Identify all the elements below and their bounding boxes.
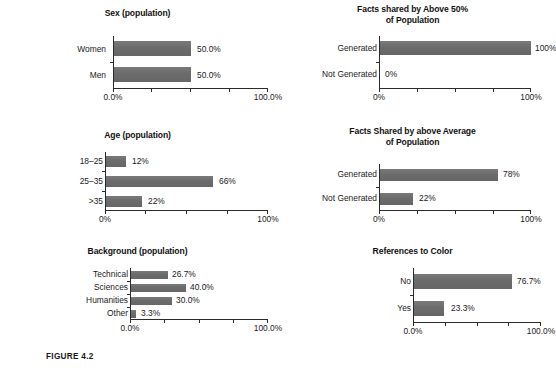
plot-area: Women 50.0% Men 50.0% 0.0% 100.0% (113, 36, 268, 88)
x-tick (227, 210, 228, 214)
chart-panel-sex: Sex (population) Women 50.0% Men 50.0% 0… (0, 0, 275, 120)
figure-chart-grid: Sex (population) Women 50.0% Men 50.0% 0… (0, 0, 550, 340)
bar-value-label: 30.0% (176, 296, 200, 305)
bar-category-label: Other (107, 309, 128, 318)
x-tick (417, 88, 418, 92)
bar-category-label: Humanities (86, 296, 128, 305)
bar-value-label: 23.3% (451, 304, 475, 313)
x-tick (477, 322, 478, 326)
y-tick (102, 171, 105, 172)
bar-value-label: 0% (385, 70, 397, 79)
bar-value-label: 76.7% (517, 277, 541, 286)
chart-panel-background: Background (population) Technical 26.7% … (0, 240, 275, 340)
bar-value-label: 50.0% (197, 45, 221, 54)
x-axis-min-label: 0.0% (103, 93, 122, 102)
bar-value-label: 26.7% (172, 270, 196, 279)
chart-title-line1: Facts Shared by above Average (275, 126, 550, 137)
bar (380, 41, 531, 55)
x-axis-min-label: 0% (373, 215, 385, 224)
bar (131, 310, 136, 318)
bar-category-label: Not Generated (322, 194, 377, 203)
y-tick (376, 62, 379, 63)
chart-title: References to Color (275, 246, 550, 257)
bar-value-label: 40.0% (190, 283, 214, 292)
chart-title-line2: of Population (275, 137, 550, 148)
bar (131, 271, 168, 279)
x-tick (455, 210, 456, 214)
chart-title: Sex (population) (0, 8, 275, 19)
bar-category-label: Yes (397, 304, 411, 313)
bar-category-label: Generated (337, 170, 377, 179)
x-axis-max-label: 100.0% (527, 327, 555, 336)
x-tick (417, 210, 418, 214)
bar-value-label: 78% (503, 170, 520, 179)
bar (131, 284, 186, 292)
bar-value-label: 12% (132, 157, 149, 166)
chart-title: Background (population) (0, 246, 275, 257)
plot-area: Generated 78% Not Generated 22% 0% 100% (379, 164, 531, 210)
bar-value-label: 3.3% (141, 309, 160, 318)
bar-category-label: 25–35 (80, 177, 103, 186)
bar-category-label: No (400, 277, 411, 286)
chart-panel-references-to-color: References to Color No 76.7% Yes 23.3% 0… (275, 240, 550, 340)
bar (114, 67, 191, 82)
chart-title-line1: Facts shared by Above 50% (275, 4, 550, 15)
bar (114, 41, 191, 56)
bar-value-label: 50.0% (197, 71, 221, 80)
bar (414, 301, 444, 316)
bar-category-label: Not Generated (322, 70, 377, 79)
x-tick (151, 88, 152, 92)
bar (106, 176, 213, 187)
y-tick (110, 62, 113, 63)
chart-panel-facts-above-50: Facts shared by Above 50% of Population … (275, 0, 550, 120)
bar (106, 156, 126, 167)
x-tick (164, 319, 165, 323)
plot-area: No 76.7% Yes 23.3% 0.0% 100.0% (413, 268, 541, 322)
x-tick (508, 322, 509, 326)
figure-caption: FIGURE 4.2 (46, 352, 94, 366)
y-tick (376, 187, 379, 188)
x-tick (455, 88, 456, 92)
bar-value-label: 22% (419, 194, 436, 203)
x-tick (199, 319, 200, 323)
x-tick (229, 88, 230, 92)
x-axis-max-label: 100% (520, 215, 541, 224)
bar-value-label: 100% (535, 44, 556, 53)
x-tick (445, 322, 446, 326)
x-tick (186, 210, 187, 214)
bar-category-label: Technical (93, 270, 128, 279)
bar (380, 169, 498, 181)
bar-category-label: 18–25 (80, 157, 103, 166)
bar (106, 196, 142, 207)
bar-category-label: Sciences (94, 283, 128, 292)
plot-area: Technical 26.7% Sciences 40.0% Humanitie… (130, 268, 268, 319)
x-tick (493, 88, 494, 92)
x-axis-min-label: 0.0% (403, 327, 422, 336)
bar (131, 297, 172, 305)
chart-title: Age (population) (0, 130, 275, 141)
bar (414, 274, 512, 289)
x-tick (190, 88, 191, 92)
x-tick (493, 210, 494, 214)
x-axis-min-label: 0% (99, 215, 111, 224)
x-tick (145, 210, 146, 214)
bar (380, 193, 413, 205)
bar-category-label: Generated (337, 44, 377, 53)
plot-area: Generated 100% Not Generated 0% 0% 100% (379, 36, 531, 88)
bar-value-label: 22% (148, 197, 165, 206)
bar-value-label: 66% (219, 177, 236, 186)
x-tick (233, 319, 234, 323)
bar-category-label: >35 (89, 197, 103, 206)
x-axis-min-label: 0% (373, 93, 385, 102)
bar-category-label: Women (77, 45, 106, 54)
chart-panel-age: Age (population) 18–25 12% 25–35 66% >35… (0, 120, 275, 240)
y-tick (102, 191, 105, 192)
plot-area: 18–25 12% 25–35 66% >35 22% 0% 100% (105, 152, 268, 210)
bar-category-label: Men (90, 71, 106, 80)
chart-panel-facts-above-average: Facts Shared by above Average of Populat… (275, 120, 550, 240)
x-axis-min-label: 0.0% (120, 324, 139, 333)
chart-title-line2: of Population (275, 15, 550, 26)
y-tick (410, 295, 413, 296)
x-axis-max-label: 100% (520, 93, 541, 102)
